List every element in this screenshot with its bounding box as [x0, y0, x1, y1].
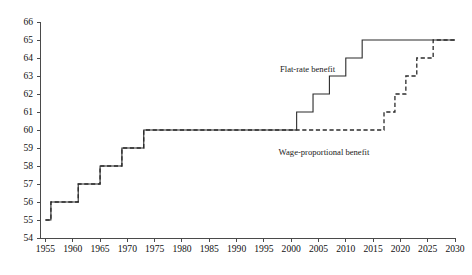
x-axis-tick-label: 2030: [445, 243, 464, 254]
x-axis-tick-label: 2000: [282, 243, 301, 254]
x-axis-tick-label: 1960: [63, 243, 82, 254]
x-axis-tick-label: 1965: [90, 243, 109, 254]
x-axis-tick-label: 1990: [227, 243, 246, 254]
y-axis-tick-label: 64: [23, 52, 33, 63]
x-axis-tick-label: 2005: [309, 243, 328, 254]
y-axis-tick-label: 58: [23, 160, 33, 171]
y-axis-tick-label: 54: [23, 232, 33, 243]
x-axis-tick-label: 2020: [391, 243, 410, 254]
x-axis-tick-label: 1995: [254, 243, 273, 254]
y-axis-tick-label: 62: [23, 88, 33, 99]
chart-canvas: 54555657585960616263646566 1955196019651…: [0, 0, 472, 275]
y-axis-tick-label: 63: [23, 70, 33, 81]
x-axis-tick-label: 1955: [36, 243, 55, 254]
chart-background: [0, 0, 472, 275]
x-axis-tick-label: 2015: [363, 243, 382, 254]
x-axis-tick-label: 1975: [145, 243, 164, 254]
x-axis-tick-label: 2025: [418, 243, 437, 254]
retirement-age-chart: 54555657585960616263646566 1955196019651…: [0, 0, 472, 275]
y-axis-tick-label: 55: [23, 214, 33, 225]
y-axis-tick-label: 59: [23, 142, 33, 153]
x-axis-tick-label: 2010: [336, 243, 355, 254]
y-axis-tick-label: 57: [23, 178, 33, 189]
y-axis-tick-label: 65: [23, 34, 33, 45]
y-axis-tick-label: 66: [23, 16, 33, 27]
x-axis-tick-label: 1980: [172, 243, 191, 254]
y-axis-tick-label: 61: [23, 106, 33, 117]
series-label-dashed: Wage-proportional benefit: [279, 147, 370, 157]
x-axis-tick-label: 1970: [118, 243, 137, 254]
series-label-solid: Flat-rate benefit: [280, 64, 336, 74]
y-axis-tick-label: 56: [23, 196, 33, 207]
y-axis-tick-label: 60: [23, 124, 33, 135]
x-axis-tick-label: 1985: [200, 243, 219, 254]
